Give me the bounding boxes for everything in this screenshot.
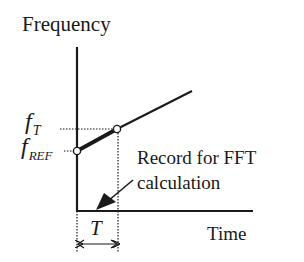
f-t-subscript: T (33, 123, 42, 138)
annotation-line-1: Record for FFT (137, 147, 257, 168)
frequency-ramp-line (117, 91, 192, 129)
annotation-arrow-shaft (108, 180, 133, 201)
x-axis-label: Time (207, 223, 246, 244)
annotation-line-2: calculation (137, 172, 221, 193)
f-t-point (113, 125, 120, 132)
f-ref-point (73, 147, 80, 154)
interval-label: T (90, 216, 103, 240)
annotation-arrow-head (96, 193, 116, 210)
f-ref-subscript: REF (28, 148, 54, 163)
frequency-time-diagram: Frequency Time fT fREF T Record for FFT … (0, 0, 304, 262)
recorded-segment (77, 129, 117, 151)
y-axis-label: Frequency (22, 12, 111, 36)
